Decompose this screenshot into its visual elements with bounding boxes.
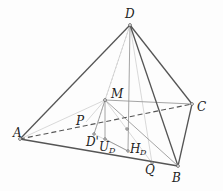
diagram-svg: D A B C M P D' U D H D Q [0, 0, 223, 191]
pyramid-diagram: D A B C M P D' U D H D Q [0, 0, 223, 191]
label-U-D-subscript: D [108, 146, 116, 155]
label-Q: Q [145, 163, 155, 177]
label-C: C [197, 100, 206, 114]
label-D: D [124, 7, 135, 21]
label-H-D-subscript: D [139, 148, 147, 157]
label-D-prime: D' [85, 135, 99, 149]
label-B: B [171, 171, 181, 185]
label-A: A [12, 126, 22, 140]
edge-AC-hidden [20, 104, 192, 139]
label-P: P [75, 114, 85, 128]
label-M: M [110, 87, 124, 101]
